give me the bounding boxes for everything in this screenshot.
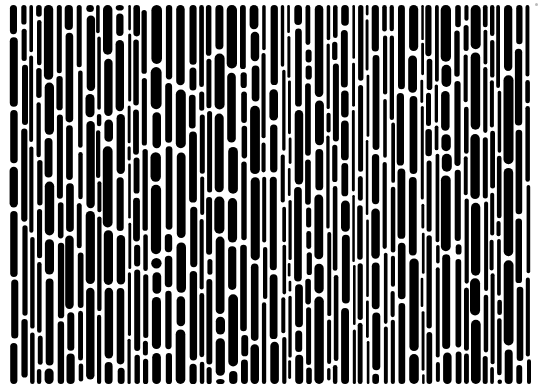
blob (483, 137, 488, 198)
blob (116, 40, 124, 111)
blob (358, 5, 363, 81)
blob (315, 149, 323, 190)
blob (45, 138, 53, 178)
blob (436, 154, 440, 243)
blob (515, 49, 522, 126)
blob (422, 311, 425, 371)
blob (78, 311, 83, 361)
blob (207, 259, 212, 275)
blob (497, 221, 501, 236)
blob (371, 209, 380, 259)
blob (270, 342, 279, 384)
corner-mark (535, 3, 538, 6)
blob (333, 365, 338, 384)
blob (391, 320, 395, 384)
blob (490, 193, 494, 236)
blob (270, 125, 277, 173)
blob (262, 177, 266, 243)
blob (441, 5, 451, 62)
blob (425, 129, 432, 156)
blob (58, 243, 64, 319)
blob (206, 279, 212, 364)
blob (306, 368, 312, 384)
blob (78, 253, 84, 308)
blob (37, 102, 41, 157)
blob (372, 313, 380, 371)
blob (358, 176, 363, 201)
blob (484, 30, 488, 65)
blob (22, 225, 27, 315)
blob (128, 34, 131, 102)
blob (177, 152, 186, 238)
blob (504, 5, 512, 71)
blob (287, 5, 290, 33)
blob (135, 355, 140, 384)
blob (327, 113, 331, 133)
blob (421, 106, 424, 200)
blob (436, 362, 440, 382)
blob (77, 5, 82, 67)
blob (44, 5, 53, 80)
blob (46, 279, 54, 366)
blob (454, 30, 459, 76)
blob (391, 291, 395, 317)
blob (341, 5, 349, 26)
blob (464, 25, 469, 51)
blob (505, 349, 513, 384)
blob (382, 5, 387, 32)
blob (216, 338, 225, 376)
blob (287, 36, 290, 78)
blob (65, 5, 73, 30)
blob (227, 5, 237, 69)
blob (491, 273, 495, 364)
blob (97, 181, 101, 212)
blob (199, 5, 204, 87)
blob (427, 160, 432, 231)
blob (143, 274, 148, 338)
blob (251, 344, 260, 384)
blob (241, 91, 247, 123)
blob (358, 323, 363, 384)
blob (295, 284, 303, 327)
blob (295, 355, 303, 384)
blob (105, 288, 114, 359)
blob (97, 216, 101, 311)
blob (327, 320, 331, 364)
blob (96, 130, 100, 178)
blob (484, 202, 488, 292)
blob (526, 5, 530, 76)
blob (37, 209, 42, 258)
blob (176, 90, 186, 149)
blob (21, 319, 27, 378)
blob (390, 5, 394, 31)
blob (483, 5, 488, 27)
blob (295, 110, 304, 184)
blob (86, 94, 95, 117)
blob (352, 110, 355, 191)
blob (79, 364, 84, 382)
blob (504, 168, 514, 256)
blob (215, 114, 224, 193)
blob (215, 54, 225, 110)
blob (471, 203, 480, 276)
blob (490, 40, 494, 78)
blob (455, 5, 461, 27)
blob (36, 68, 41, 98)
blob (306, 66, 312, 80)
blob (117, 235, 125, 285)
blob (490, 5, 494, 36)
blob (242, 126, 248, 159)
blob (128, 146, 131, 160)
blob (366, 300, 369, 338)
blob (87, 16, 95, 91)
blob (464, 5, 468, 21)
blob (199, 293, 204, 357)
blob (341, 30, 348, 88)
blob (314, 195, 323, 260)
vertical-blob-pattern (0, 0, 542, 387)
blob (206, 59, 211, 109)
blob (314, 297, 323, 385)
blob (372, 154, 379, 204)
blob (134, 158, 140, 194)
blob (422, 374, 425, 384)
